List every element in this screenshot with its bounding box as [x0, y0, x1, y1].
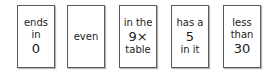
card-has-a-5: has a 5 in it [171, 5, 209, 68]
card-text: 5 [186, 29, 194, 44]
card-text: even [74, 31, 99, 43]
card-less-than-30: less than 30 [223, 5, 261, 68]
card-text: 0 [32, 41, 40, 56]
card-text: has a [177, 17, 204, 29]
card-in-9x-table: in the 9× table [119, 5, 157, 68]
card-text: in it [181, 44, 200, 56]
card-text: 30 [234, 41, 251, 56]
card-text: in [31, 29, 40, 41]
card-even: even [67, 5, 105, 68]
card-text: less [232, 17, 251, 29]
card-text: in the [124, 17, 153, 29]
card-text: 9× [128, 29, 147, 44]
card-ends-in-0: ends in 0 [17, 5, 55, 68]
card-text: than [231, 29, 254, 41]
card-text: ends [24, 17, 48, 29]
card-text: table [125, 44, 150, 56]
